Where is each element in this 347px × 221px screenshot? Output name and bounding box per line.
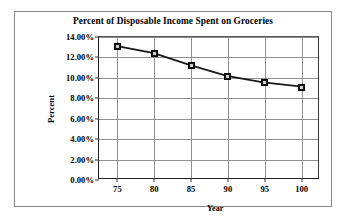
x-tick-mark: [227, 178, 228, 182]
x-tick-label: 95: [260, 184, 269, 194]
y-tick-label: 10.00%: [66, 73, 94, 83]
y-tick-label: 8.00%: [70, 93, 94, 103]
data-point-marker: [188, 62, 195, 69]
y-tick-label: 14.00%: [66, 32, 94, 42]
y-tick-label: 4.00%: [70, 134, 94, 144]
y-tick-label: 6.00%: [70, 114, 94, 124]
y-axis-title: Percent: [46, 95, 56, 123]
y-tick-label: 12.00%: [66, 52, 94, 62]
chart-frame: Percent of Disposable Income Spent on Gr…: [14, 11, 332, 207]
chart-title: Percent of Disposable Income Spent on Gr…: [15, 16, 331, 26]
x-axis-title: Year: [207, 204, 223, 213]
x-tick-mark: [264, 178, 265, 182]
x-tick-mark: [154, 178, 155, 182]
x-tick-label: 80: [150, 184, 159, 194]
y-tick-mark: [95, 180, 99, 181]
y-tick-label: 2.00%: [70, 155, 94, 165]
data-point-marker: [261, 79, 268, 86]
series-line: [99, 37, 318, 178]
plot-area: 0.00%2.00%4.00%6.00%8.00%10.00%12.00%14.…: [98, 36, 319, 179]
data-point-marker: [298, 84, 305, 91]
x-tick-label: 100: [295, 184, 308, 194]
x-tick-label: 85: [187, 184, 196, 194]
x-tick-label: 90: [224, 184, 233, 194]
data-point-marker: [224, 73, 231, 80]
x-tick-label: 75: [113, 184, 122, 194]
series-polyline: [117, 46, 299, 86]
data-point-marker: [151, 50, 158, 57]
data-point-marker: [114, 43, 121, 50]
x-tick-mark: [301, 178, 302, 182]
x-tick-mark: [117, 178, 118, 182]
x-tick-mark: [191, 178, 192, 182]
y-tick-label: 0.00%: [70, 175, 94, 185]
